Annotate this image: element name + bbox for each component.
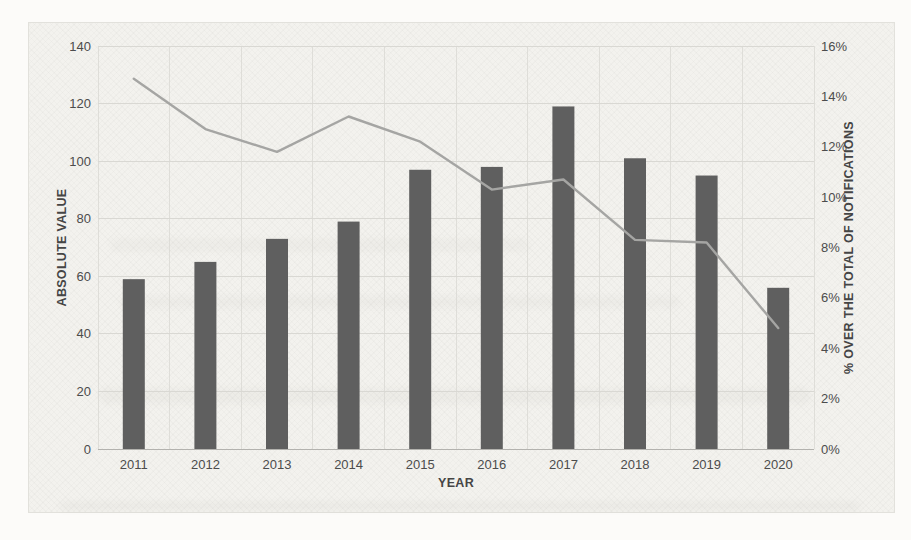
- bar-2018: [624, 158, 646, 449]
- x-axis-tick: 2014: [334, 457, 363, 472]
- right-axis-tick: 6%: [821, 290, 840, 305]
- x-axis-tick: 2013: [263, 457, 292, 472]
- left-axis-tick: 140: [69, 39, 91, 54]
- left-axis-tick: 0: [84, 442, 91, 457]
- left-axis-title: ABSOLUTE VALUE: [55, 189, 69, 307]
- left-axis-tick: 120: [69, 96, 91, 111]
- bar-2011: [123, 279, 145, 449]
- left-axis-tick: 80: [77, 211, 91, 226]
- x-axis-tick: 2016: [477, 457, 506, 472]
- combo-chart: 0204060801001201400%2%4%6%8%10%12%14%16%…: [0, 0, 911, 540]
- left-axis-tick: 60: [77, 269, 91, 284]
- x-axis-tick: 2011: [120, 457, 148, 472]
- bar-2013: [266, 239, 288, 449]
- left-axis-tick: 40: [77, 326, 91, 341]
- right-axis-tick: 4%: [821, 341, 840, 356]
- right-axis-tick: 8%: [821, 240, 840, 255]
- x-axis-tick: 2015: [406, 457, 435, 472]
- right-axis-tick: 2%: [821, 391, 840, 406]
- bar-2016: [481, 167, 503, 449]
- right-axis-tick: 14%: [821, 89, 847, 104]
- right-axis-title: % OVER THE TOTAL OF NOTIFICATIONS: [842, 121, 856, 374]
- left-axis-tick: 100: [69, 154, 91, 169]
- x-axis-tick: 2020: [764, 457, 793, 472]
- bar-2012: [194, 262, 216, 449]
- bar-2015: [409, 170, 431, 449]
- right-axis-tick: 16%: [821, 39, 847, 54]
- x-axis-tick: 2012: [191, 457, 220, 472]
- x-axis-title: YEAR: [438, 476, 474, 490]
- bar-2017: [552, 106, 574, 449]
- bar-2020: [767, 288, 789, 449]
- bar-2019: [696, 176, 718, 449]
- x-axis-tick: 2019: [692, 457, 721, 472]
- right-axis-tick: 0%: [821, 442, 840, 457]
- left-axis-tick: 20: [77, 384, 91, 399]
- scanned-page-background: 0204060801001201400%2%4%6%8%10%12%14%16%…: [0, 0, 911, 540]
- x-axis-tick: 2018: [621, 457, 650, 472]
- bar-2014: [338, 222, 360, 449]
- x-axis-tick: 2017: [549, 457, 578, 472]
